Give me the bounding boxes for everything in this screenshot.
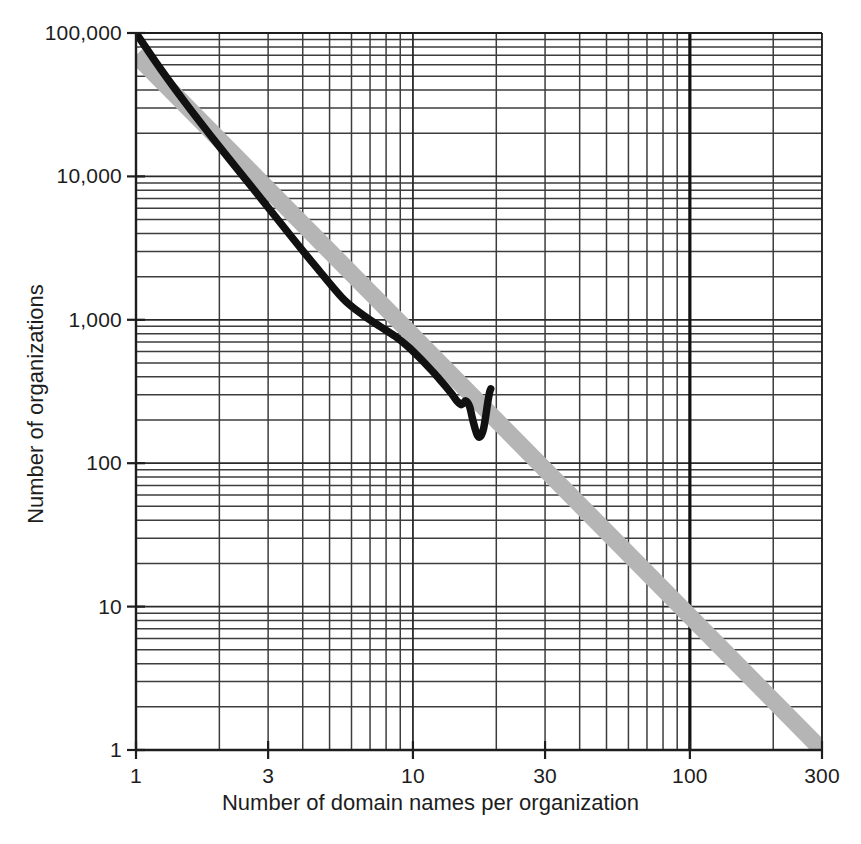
x-tick-label: 30 (533, 764, 557, 788)
y-tick-label: 10,000 (57, 164, 122, 188)
y-axis-title: Number of organizations (23, 164, 49, 644)
x-tick-label: 100 (672, 764, 708, 788)
y-tick-label: 100,000 (45, 21, 122, 45)
x-tick-label: 300 (804, 764, 840, 788)
chart-figure: 1101001,00010,000100,000 131030100300 Nu… (0, 0, 861, 844)
y-tick-label: 1 (110, 738, 122, 762)
y-tick-label: 1,000 (68, 308, 122, 332)
y-tick-label: 10 (98, 595, 122, 619)
y-tick-label: 100 (86, 451, 122, 475)
x-tick-label: 1 (130, 764, 142, 788)
x-tick-label: 3 (262, 764, 274, 788)
x-axis-title: Number of domain names per organization (0, 790, 861, 816)
log-log-plot (0, 0, 861, 844)
x-tick-label: 10 (401, 764, 425, 788)
